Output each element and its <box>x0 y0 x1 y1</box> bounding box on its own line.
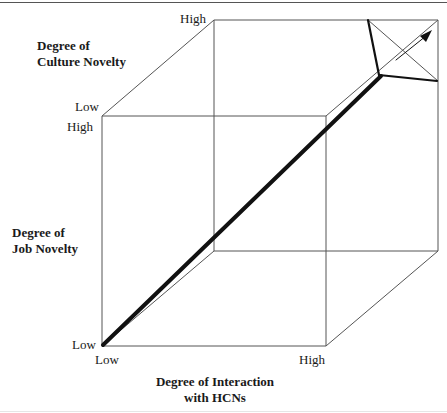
interaction-high-label: High <box>299 352 325 367</box>
interaction-title-line1: Degree of Interaction <box>140 374 290 390</box>
job-novelty-title: Degree of Job Novelty <box>12 225 78 257</box>
job-novelty-high-label: High <box>67 119 93 134</box>
connect-bottom-right <box>326 251 438 346</box>
culture-novelty-low-label: Low <box>75 99 99 114</box>
culture-novelty-high-label: High <box>180 11 206 26</box>
job-novelty-low-label: Low <box>72 337 96 352</box>
arrow-fan-right <box>379 75 437 81</box>
interaction-title: Degree of Interaction with HCNs <box>140 374 290 406</box>
culture-novelty-title-line2: Culture Novelty <box>37 54 126 70</box>
arrowhead-icon <box>420 30 432 42</box>
bottom-rule <box>0 411 447 412</box>
interaction-low-label: Low <box>95 352 119 367</box>
job-novelty-title-line2: Job Novelty <box>12 241 78 257</box>
job-novelty-title-line1: Degree of <box>12 225 78 241</box>
culture-novelty-title: Degree of Culture Novelty <box>37 38 126 70</box>
culture-novelty-title-line1: Degree of <box>37 38 126 54</box>
connect-top-right <box>326 20 438 116</box>
interaction-title-line2: with HCNs <box>140 390 290 406</box>
